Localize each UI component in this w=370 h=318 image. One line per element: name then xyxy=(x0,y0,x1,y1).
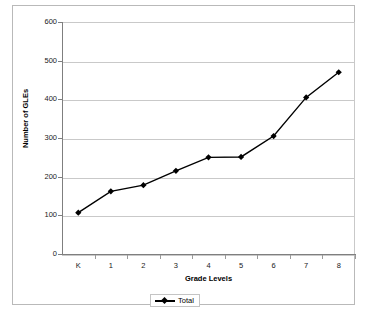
legend-marker-icon xyxy=(155,297,175,304)
series-line-total xyxy=(78,72,338,212)
y-axis-tick-label: 300 xyxy=(27,134,57,142)
chart-figure: 0100200300400500600 Number of GLEs K1234… xyxy=(0,0,370,318)
x-axis-tick-mark xyxy=(257,255,258,259)
x-axis-tick-label: K xyxy=(68,261,88,270)
data-point-marker xyxy=(205,154,211,160)
y-axis-tick-mark xyxy=(58,215,62,216)
data-point-marker xyxy=(140,182,146,188)
legend-label-total: Total xyxy=(178,296,194,305)
y-axis-tick-mark xyxy=(58,177,62,178)
chart-outer-frame: 0100200300400500600 Number of GLEs K1234… xyxy=(12,5,355,305)
y-axis-tick-label: 500 xyxy=(27,57,57,65)
x-axis-tick-mark xyxy=(160,255,161,259)
x-axis-tick-mark xyxy=(355,255,356,259)
x-axis-title: Grade Levels xyxy=(62,274,355,283)
x-axis-tick-label: 6 xyxy=(264,261,284,270)
y-axis-tick-mark xyxy=(58,22,62,23)
x-axis-tick-mark xyxy=(322,255,323,259)
y-axis-tick-label: 600 xyxy=(27,18,57,26)
x-axis-tick-mark xyxy=(290,255,291,259)
y-axis-tick-mark xyxy=(58,61,62,62)
y-axis-tick-label: 200 xyxy=(27,173,57,181)
x-axis-tick-label: 4 xyxy=(199,261,219,270)
x-axis-tick-label: 2 xyxy=(133,261,153,270)
x-axis-tick-mark xyxy=(127,255,128,259)
x-axis-tick-mark xyxy=(95,255,96,259)
x-axis-tick-mark xyxy=(192,255,193,259)
y-axis-title: Number of GLEs xyxy=(21,84,30,154)
x-axis-tick-label: 1 xyxy=(101,261,121,270)
y-axis-tick-mark xyxy=(58,99,62,100)
y-axis-tick-labels: 0100200300400500600 xyxy=(23,6,57,306)
y-axis-tick-mark xyxy=(58,138,62,139)
x-axis-tick-mark xyxy=(225,255,226,259)
y-axis-tick-label: 0 xyxy=(27,250,57,258)
y-axis-tick-label: 400 xyxy=(27,95,57,103)
data-point-marker xyxy=(173,168,179,174)
y-axis-tick-label: 100 xyxy=(27,211,57,219)
x-axis-tick-label: 8 xyxy=(329,261,349,270)
x-axis-tick-label: 3 xyxy=(166,261,186,270)
x-axis-tick-label: 7 xyxy=(296,261,316,270)
y-axis-tick-mark xyxy=(58,254,62,255)
chart-legend: Total xyxy=(150,294,200,307)
data-series-total xyxy=(62,22,356,255)
x-axis-tick-label: 5 xyxy=(231,261,251,270)
gridline xyxy=(62,255,354,256)
